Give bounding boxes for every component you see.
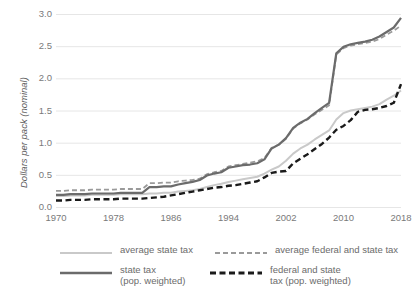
legend-item-label: average state tax (120, 244, 193, 255)
y-axis-tick-label: 0.5 (26, 170, 52, 180)
chart-legend: average state tax average federal and st… (0, 240, 411, 296)
y-axis-tick-label: 2.0 (26, 73, 52, 83)
legend-swatch-line (215, 245, 267, 257)
x-axis-tick-label: 2018 (381, 212, 416, 223)
legend-item-label: federal and state tax (pop. weighted) (270, 264, 351, 286)
legend-item-label: average federal and state tax (275, 244, 398, 255)
x-axis-tick-label: 1970 (36, 212, 76, 223)
y-axis-tick-label: 1.0 (26, 138, 52, 148)
legend-item-average-federal-and-state-tax[interactable]: average federal and state tax (215, 244, 398, 257)
legend-item-label: state tax (pop. weighted) (120, 264, 185, 286)
chart-series-line (56, 91, 401, 197)
y-axis-tick-label: 1.5 (26, 106, 52, 116)
x-axis-tick-label: 2002 (266, 212, 306, 223)
legend-swatch-line (60, 265, 112, 277)
x-axis-tick-label: 1994 (209, 212, 249, 223)
y-axis-tick-labels: 0.00.51.01.52.02.53.0 (24, 0, 52, 230)
y-axis-tick-label: 0.0 (26, 202, 52, 212)
y-axis-tick-label: 2.5 (26, 41, 52, 51)
x-axis-tick-label: 1986 (151, 212, 191, 223)
chart-plot-area (56, 14, 401, 207)
x-axis-tick-label: 1978 (94, 212, 134, 223)
legend-item-average-state-tax[interactable]: average state tax (60, 244, 193, 257)
legend-item-federal-and-state-tax-pop-weighted[interactable]: federal and state tax (pop. weighted) (210, 264, 351, 286)
x-axis-tick-label: 2010 (324, 212, 364, 223)
chart-series-line (56, 84, 401, 200)
legend-item-state-tax-pop-weighted[interactable]: state tax (pop. weighted) (60, 264, 185, 286)
chart-series-line (56, 18, 401, 195)
chart-series-line (56, 26, 401, 191)
legend-swatch-line (60, 245, 112, 257)
legend-swatch-line (210, 265, 262, 277)
y-axis-tick-label: 3.0 (26, 9, 52, 19)
